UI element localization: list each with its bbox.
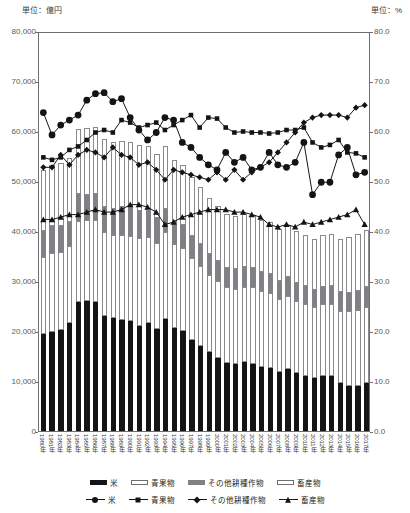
x-axis-label: 1999年 — [205, 434, 211, 453]
line-marker — [258, 130, 263, 135]
line-marker — [49, 132, 56, 139]
line-marker — [119, 118, 124, 123]
line-marker — [283, 221, 289, 227]
left-tick-label: 10,000 — [12, 378, 36, 386]
line-marker — [335, 152, 342, 159]
line-marker — [197, 125, 202, 130]
right-tick-label: 50.0 — [374, 178, 390, 186]
x-axis-label: 2012年 — [319, 434, 325, 453]
x-axis-label: 2006年 — [266, 434, 272, 453]
left-tick-label: 30,000 — [12, 278, 36, 286]
line-marker — [353, 171, 360, 178]
right-tick-mark — [370, 82, 373, 83]
legend-line-swatch — [279, 495, 298, 504]
line-series — [40, 102, 367, 183]
line-marker — [249, 130, 254, 135]
right-tick-mark — [370, 232, 373, 233]
right-tick-mark — [370, 282, 373, 283]
line-marker — [362, 155, 367, 160]
legend-label: その他耕種作物 — [210, 494, 266, 505]
left-tick-mark — [35, 282, 38, 283]
line-marker — [189, 113, 194, 118]
right-tick-mark — [370, 332, 373, 333]
line-marker — [266, 149, 273, 156]
legend-line-swatch — [188, 495, 207, 504]
right-tick-label: 10.0 — [374, 378, 390, 386]
line-marker — [66, 117, 73, 124]
legend-item-line[interactable]: 青果物 — [129, 494, 175, 505]
legend-label: 青果物 — [151, 477, 175, 488]
line-marker — [145, 123, 150, 128]
x-axis-label: 1992年 — [144, 434, 150, 453]
left-tick-label: 50,000 — [12, 178, 36, 186]
square-marker-icon — [136, 497, 141, 502]
line-marker — [267, 131, 272, 136]
line-marker — [40, 109, 47, 116]
x-axis-label: 2014年 — [336, 434, 342, 453]
legend-item-line[interactable]: 米 — [86, 494, 116, 505]
line-marker — [92, 90, 99, 97]
line-marker — [353, 206, 359, 212]
x-axis-label: 2017年 — [363, 434, 369, 453]
line-series — [40, 89, 368, 198]
legend-item-bar[interactable]: 青果物 — [131, 477, 175, 488]
line-marker — [283, 164, 290, 171]
right-tick-label: 60.0 — [374, 128, 390, 136]
x-axis-labels: 1980年1981年1982年1983年1984年1985年1986年1987年… — [38, 434, 370, 474]
left-axis-unit-label: 単位：億円 — [22, 4, 62, 15]
left-tick-mark — [35, 332, 38, 333]
line-marker — [57, 122, 64, 129]
line-marker — [205, 161, 212, 168]
triangle-marker-icon — [285, 496, 291, 502]
x-axis-label: 1986年 — [92, 434, 98, 453]
line-marker — [93, 130, 98, 135]
line-marker — [92, 206, 98, 212]
left-tick-mark — [35, 82, 38, 83]
right-tick-mark — [370, 132, 373, 133]
x-axis-label: 1998年 — [197, 434, 203, 453]
x-axis-label: 1983年 — [65, 434, 71, 453]
line-marker — [336, 138, 341, 143]
x-axis-label: 1995年 — [170, 434, 176, 453]
line-marker — [50, 158, 55, 163]
legend-item-bar[interactable]: 畜産物 — [277, 477, 321, 488]
line-marker — [284, 128, 289, 133]
line-marker — [163, 128, 168, 133]
x-axis-label: 2016年 — [354, 434, 360, 453]
left-tick-label: 60,000 — [12, 128, 36, 136]
right-tick-label: 0.0 — [374, 428, 385, 436]
line-marker — [188, 172, 194, 178]
right-tick-mark — [370, 382, 373, 383]
x-axis-label: 1982年 — [57, 434, 63, 453]
x-axis-label: 1989年 — [118, 434, 124, 453]
left-tick-label: 80,000 — [12, 28, 36, 36]
line-marker — [232, 130, 237, 135]
legend-item-bar[interactable]: 米 — [90, 477, 118, 488]
white-bar-icon — [131, 480, 148, 485]
line-marker — [179, 139, 186, 146]
line-marker — [241, 129, 246, 134]
line-marker — [310, 140, 315, 145]
line-marker — [40, 164, 46, 170]
legend-item-line[interactable]: その他耕種作物 — [188, 494, 266, 505]
left-tick-mark — [35, 432, 38, 433]
line-marker — [75, 112, 82, 119]
line-marker — [215, 116, 220, 121]
line-marker — [83, 97, 90, 104]
right-tick-label: 70.0 — [374, 78, 390, 86]
line-marker — [206, 115, 211, 120]
line-marker — [240, 154, 247, 161]
x-axis-label: 2015年 — [345, 434, 351, 453]
line-marker — [327, 179, 334, 186]
line-marker — [319, 145, 324, 150]
right-tick-label: 30.0 — [374, 278, 390, 286]
plot-area — [38, 32, 370, 432]
line-marker — [362, 102, 368, 108]
line-marker — [118, 95, 125, 102]
x-axis-label: 2008年 — [284, 434, 290, 453]
legend-item-line[interactable]: 畜産物 — [279, 494, 325, 505]
legend-row-lines: 米青果物その他耕種作物畜産物 — [0, 491, 410, 508]
line-marker — [127, 114, 134, 121]
legend-item-bar[interactable]: その他耕種作物 — [188, 477, 264, 488]
left-tick-mark — [35, 182, 38, 183]
